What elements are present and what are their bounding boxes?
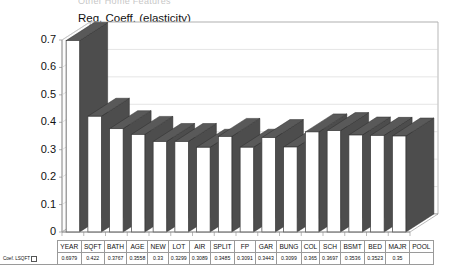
table-row: Coef. LSQFT0.69790.4220.37670.35580.330.…: [0, 253, 434, 265]
table-column-header: LOT: [168, 241, 189, 253]
table-cell-value: 0.3089: [189, 253, 210, 265]
data-table: YEARSQFTBATHAGENEWLOTAIRSPLITFPGARBUNGCO…: [0, 240, 434, 265]
table-cell-value: 0.3485: [210, 253, 234, 265]
table-header-row: YEARSQFTBATHAGENEWLOTAIRSPLITFPGARBUNGCO…: [0, 241, 434, 253]
table-cell-value: 0.33: [148, 253, 168, 265]
table-column-header: SCH: [320, 241, 341, 253]
legend-cell: Coef. LSQFT: [0, 253, 58, 265]
y-axis-tick-label: 0.5: [22, 88, 56, 100]
chart-canvas: [0, 0, 460, 267]
y-axis-tick-label: 0.2: [22, 170, 56, 182]
bar-chart-3d: 0.70.60.50.40.30.20.10: [0, 0, 460, 267]
y-axis-tick-label: 0.3: [22, 143, 56, 155]
axis-ticks: [62, 232, 410, 236]
y-axis-tick-label: 0.4: [22, 115, 56, 127]
y-axis-tick-label: 0.1: [22, 198, 56, 210]
table-column-header: BATH: [104, 241, 127, 253]
y-axis-tick-label: 0.7: [22, 33, 56, 45]
y-axis-tick-label: 0.6: [22, 60, 56, 72]
y-axis-tick-label: 0: [22, 225, 56, 237]
table-cell-value: 0.3099: [276, 253, 301, 265]
table-column-header: POOL: [409, 241, 433, 253]
table-column-header: GAR: [255, 241, 276, 253]
table-column-header: YEAR: [58, 241, 82, 253]
table-cell-value: 0.3536: [341, 253, 365, 265]
table-cell-value: 0.3091: [234, 253, 255, 265]
table-column-header: BUNG: [276, 241, 301, 253]
table-cell-value: 0.3299: [168, 253, 189, 265]
table-cell-value: 0.3697: [320, 253, 341, 265]
table-column-header: AIR: [189, 241, 210, 253]
legend-label: Coef. LSQFT: [3, 256, 30, 261]
table-cell-value: 0.35: [386, 253, 410, 265]
table-cell-value: 0.422: [81, 253, 104, 265]
table-cell-value: 0.6979: [58, 253, 82, 265]
square-marker-icon: [31, 256, 37, 262]
table-column-header: AGE: [127, 241, 148, 253]
table-cell-value: 0.3558: [127, 253, 148, 265]
table-column-header: NEW: [148, 241, 168, 253]
table-column-header: FP: [234, 241, 255, 253]
table-column-header: MAJR: [386, 241, 410, 253]
table-column-header: BSMT: [341, 241, 365, 253]
table-corner-cell: [0, 241, 58, 253]
table-column-header: BED: [365, 241, 386, 253]
table-column-header: SPLIT: [210, 241, 234, 253]
table-cell-value: [409, 253, 433, 265]
table-column-header: COL: [301, 241, 319, 253]
table-cell-value: 0.365: [301, 253, 319, 265]
table-cell-value: 0.3767: [104, 253, 127, 265]
table-cell-value: 0.3523: [365, 253, 386, 265]
table-cell-value: 0.3443: [255, 253, 276, 265]
table-column-header: SQFT: [81, 241, 104, 253]
